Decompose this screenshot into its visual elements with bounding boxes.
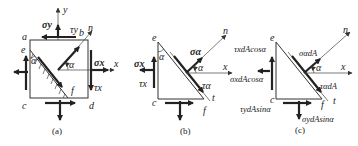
x-axis-label: x (340, 61, 346, 72)
sigma-x-term-label: σxdAcosα (230, 74, 264, 84)
sigma-x-label: σx (134, 58, 144, 69)
caption-b: (b) (180, 126, 191, 136)
point-f: f (71, 85, 75, 96)
n-axis-label: n (88, 22, 93, 33)
point-f: f (203, 105, 207, 116)
stress-element-diagram: y σy τy x n α σx τx (0, 0, 358, 146)
point-c: c (152, 97, 157, 108)
point-t: t (333, 95, 336, 106)
point-b: b (79, 27, 84, 38)
caption-c: (c) (295, 125, 305, 135)
sigma-alpha-label: σα (190, 46, 201, 57)
sigma-x-label: σx (94, 57, 104, 68)
sigma-y-term-label: σydAsinα (302, 114, 334, 124)
panel-a: y σy τy x n α σx τx (14, 4, 119, 136)
tau-alpha-dA-label: ταdA (320, 81, 338, 91)
tau-x-label: τx (139, 78, 148, 89)
point-t: t (212, 92, 215, 103)
n-axis-label: n (343, 24, 348, 35)
angle-label: α (69, 59, 75, 70)
y-axis-label: y (62, 4, 68, 15)
point-c: c (270, 94, 275, 105)
caption-a: (a) (52, 126, 62, 136)
sigma-alpha-dA-label: σαdA (299, 48, 318, 58)
x-axis-label: x (113, 58, 119, 69)
shear-stress-arrow (38, 57, 62, 87)
point-e: e (152, 32, 157, 43)
tau-x-label: τx (94, 82, 103, 93)
x-axis-label: x (222, 61, 228, 72)
panel-c: n σαdA x α ταdA τxdAcosα σxdAcosα τydAsi… (230, 24, 352, 135)
point-f: f (321, 99, 325, 110)
n-axis-label: n (223, 25, 228, 36)
tau-alpha-label: τα (202, 80, 212, 91)
tau-y-term-label: τydAsinα (240, 104, 271, 114)
point-e: e (270, 32, 275, 43)
angle-e-label: α (159, 51, 165, 62)
angle-label: α (316, 62, 322, 73)
point-a: a (22, 31, 27, 42)
point-c: c (22, 100, 27, 111)
angle-e-label: α (31, 55, 37, 66)
point-d: d (89, 100, 95, 111)
angle-label: α (198, 62, 204, 73)
tau-y-label: τy (70, 24, 79, 35)
tau-x-term-label: τxdAcosα (234, 44, 267, 54)
panel-b: n σα x α τα σx τx α e c f t (b) (134, 25, 232, 136)
sigma-y-label: σy (42, 19, 52, 30)
point-e: e (21, 44, 26, 55)
